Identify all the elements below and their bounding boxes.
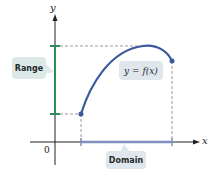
x-axis-label: x xyxy=(202,135,208,146)
curve-end-point xyxy=(170,59,175,64)
y-axis-arrow-icon xyxy=(53,14,58,21)
domain-range-diagram xyxy=(0,0,215,176)
domain-label: Domain xyxy=(106,151,146,169)
domain-bracket xyxy=(81,138,172,146)
x-axis-arrow-icon xyxy=(193,140,200,145)
origin-label: 0 xyxy=(44,145,50,155)
y-axis-label: y xyxy=(50,2,56,13)
curve-start-point xyxy=(79,112,84,117)
range-label: Range xyxy=(12,57,46,79)
range-bracket xyxy=(50,46,60,114)
function-label: y = f(x) xyxy=(119,61,163,80)
